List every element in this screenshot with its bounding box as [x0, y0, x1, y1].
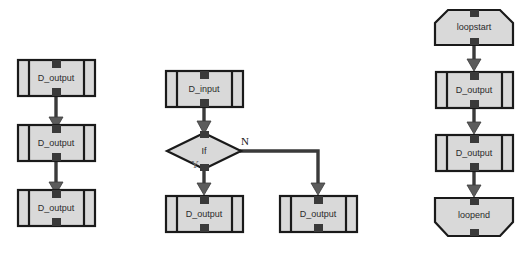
- node-top-tab: [200, 71, 209, 79]
- node-bottom-tab: [470, 163, 479, 171]
- node-left-2-label: D_output: [38, 138, 75, 148]
- node-left-3-label: D_output: [38, 203, 75, 213]
- node-mid-input[interactable]: D_input: [166, 71, 243, 107]
- node-bottom-tab: [470, 38, 479, 45]
- node-top-tab: [314, 196, 323, 204]
- node-loop-body-2[interactable]: D_output: [436, 135, 513, 171]
- node-bottom-tab: [314, 224, 323, 232]
- node-left-2[interactable]: D_output: [18, 125, 95, 161]
- node-mid-if[interactable]: If Y N: [167, 131, 249, 171]
- node-bottom-tab: [200, 99, 209, 107]
- node-loop-end[interactable]: loopend: [435, 198, 513, 236]
- connector-loopstart-to-body1: [467, 45, 481, 71]
- node-left-3[interactable]: D_output: [18, 190, 95, 226]
- node-mid-no-label: D_output: [300, 209, 337, 219]
- node-top-tab: [470, 10, 479, 17]
- node-loop-start[interactable]: loopstart: [435, 10, 513, 45]
- node-top-tab: [52, 190, 61, 198]
- node-loop-start-label: loopstart: [457, 22, 492, 32]
- loop-column: loopstart D_output D_output: [435, 10, 513, 236]
- node-mid-yes-label: D_output: [186, 209, 223, 219]
- node-loop-body-2-label: D_output: [456, 148, 493, 158]
- node-mid-no[interactable]: D_output: [280, 196, 357, 232]
- node-bottom-tab: [470, 229, 479, 236]
- branch-label-yes: Y: [191, 158, 199, 170]
- connector-if-no: [240, 151, 325, 195]
- sequence-column: D_output D_output D_output: [18, 60, 95, 226]
- node-top-tab: [52, 60, 61, 68]
- node-mid-if-label: If: [201, 146, 207, 156]
- diamond-bottom-tab: [200, 164, 209, 171]
- connector-left-2-to-left-3: [49, 160, 63, 194]
- node-left-1[interactable]: D_output: [18, 60, 95, 96]
- node-top-tab: [200, 196, 209, 204]
- connector-body2-to-loopend: [467, 171, 481, 197]
- node-bottom-tab: [200, 224, 209, 232]
- node-loop-body-1[interactable]: D_output: [436, 72, 513, 108]
- flowchart-svg: D_output D_output D_output: [0, 0, 523, 254]
- diamond-top-tab: [200, 131, 209, 138]
- node-bottom-tab: [52, 88, 61, 96]
- node-bottom-tab: [52, 153, 61, 161]
- node-top-tab: [470, 72, 479, 80]
- node-top-tab: [470, 135, 479, 143]
- flowchart-canvas: D_output D_output D_output: [0, 0, 523, 254]
- branch-label-no: N: [241, 135, 249, 147]
- node-mid-input-label: D_input: [188, 84, 220, 94]
- node-bottom-tab: [52, 218, 61, 226]
- node-loop-end-label: loopend: [458, 210, 490, 220]
- node-top-tab: [470, 198, 479, 205]
- branch-column: D_input If Y N D_output: [166, 71, 357, 232]
- connector-mid-input-to-if: [197, 107, 211, 134]
- node-mid-yes[interactable]: D_output: [166, 196, 243, 232]
- node-top-tab: [52, 125, 61, 133]
- node-left-1-label: D_output: [38, 73, 75, 83]
- node-loop-body-1-label: D_output: [456, 85, 493, 95]
- connector-if-yes: [197, 168, 211, 195]
- node-bottom-tab: [470, 100, 479, 108]
- connector-body1-to-body2: [467, 108, 481, 134]
